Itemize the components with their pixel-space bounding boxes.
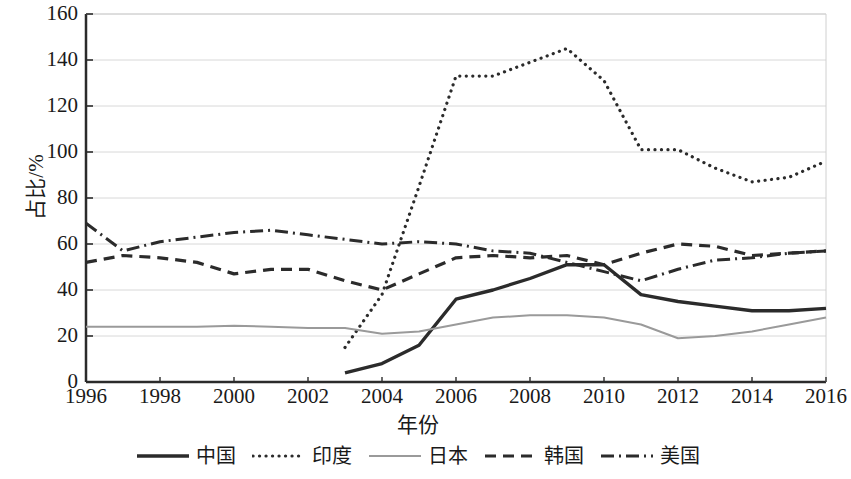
legend-swatch-1 <box>252 449 306 463</box>
legend-swatch-4 <box>600 449 654 463</box>
legend: 中国印度日本韩国美国 <box>0 446 835 466</box>
series-line-4 <box>86 223 826 280</box>
legend-swatch-2 <box>368 449 422 463</box>
legend-item-3[interactable]: 韩国 <box>484 446 584 466</box>
gridlines <box>86 14 826 336</box>
series-line-2 <box>86 315 826 338</box>
series-line-0 <box>345 265 826 373</box>
legend-item-0[interactable]: 中国 <box>136 446 236 466</box>
legend-swatch-0 <box>136 449 190 463</box>
legend-label-0: 中国 <box>196 446 236 466</box>
legend-label-4: 美国 <box>660 446 700 466</box>
legend-label-2: 日本 <box>428 446 468 466</box>
data-series-group <box>86 49 826 373</box>
legend-swatch-3 <box>484 449 538 463</box>
legend-label-1: 印度 <box>312 446 352 466</box>
legend-label-3: 韩国 <box>544 446 584 466</box>
legend-item-4[interactable]: 美国 <box>600 446 700 466</box>
legend-item-1[interactable]: 印度 <box>252 446 352 466</box>
series-line-3 <box>86 244 826 290</box>
legend-item-2[interactable]: 日本 <box>368 446 468 466</box>
